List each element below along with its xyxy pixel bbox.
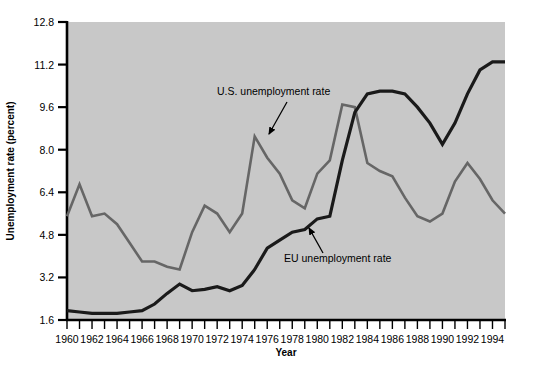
x-tick-label: 1968 <box>155 333 179 345</box>
us-annotation-label: U.S. unemployment rate <box>217 85 330 97</box>
y-tick-label: 6.4 <box>39 186 54 198</box>
x-tick-label: 1992 <box>456 333 480 345</box>
y-tick-label: 12.8 <box>34 16 55 28</box>
y-tick-label: 11.2 <box>34 59 54 71</box>
y-tick-label: 8.0 <box>39 144 54 156</box>
x-tick-label: 1976 <box>256 333 280 345</box>
x-tick-label: 1986 <box>381 333 405 345</box>
y-tick-label: 4.8 <box>39 229 54 241</box>
x-tick-label: 1970 <box>180 333 204 345</box>
x-tick-label: 1966 <box>130 333 154 345</box>
x-tick-label: 1994 <box>481 333 505 345</box>
x-tick-label: 1990 <box>431 333 455 345</box>
x-tick-label: 1960 <box>55 333 79 345</box>
x-tick-label: 1984 <box>356 333 380 345</box>
x-tick-label: 1972 <box>205 333 229 345</box>
y-axis-title: Unemployment rate (percent) <box>5 102 16 241</box>
y-tick-label: 3.2 <box>39 271 54 283</box>
x-tick-label: 1988 <box>406 333 430 345</box>
x-tick-label: 1962 <box>80 333 104 345</box>
y-tick-label: 1.6 <box>39 314 54 326</box>
unemployment-rate-line-chart: 1.63.24.86.48.09.611.212.8 1960196219641… <box>0 0 541 367</box>
y-tick-label: 9.6 <box>39 101 54 113</box>
x-tick-label: 1964 <box>105 333 129 345</box>
eu-annotation-label: EU unemployment rate <box>284 252 392 264</box>
x-tick-label: 1982 <box>331 333 355 345</box>
x-tick-label: 1980 <box>306 333 330 345</box>
x-tick-label: 1974 <box>231 333 255 345</box>
plot-area-background <box>67 22 505 320</box>
x-tick-label: 1978 <box>281 333 305 345</box>
x-axis-title: Year <box>275 347 296 358</box>
